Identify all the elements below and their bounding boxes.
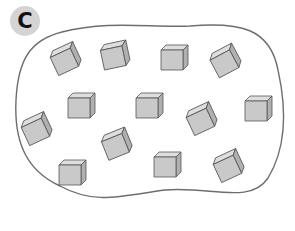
- cube: [211, 149, 246, 183]
- cube: [161, 45, 188, 70]
- cube: [136, 93, 163, 118]
- cube: [245, 96, 272, 121]
- cube: [48, 42, 83, 76]
- cube-group: [19, 40, 272, 185]
- cube: [59, 160, 86, 185]
- cube: [154, 152, 181, 177]
- cube: [99, 40, 131, 70]
- cube: [68, 93, 95, 118]
- cube: [184, 102, 219, 136]
- cube: [100, 127, 134, 160]
- cube: [19, 112, 54, 146]
- diagram-canvas: [0, 0, 295, 231]
- cube: [208, 43, 244, 78]
